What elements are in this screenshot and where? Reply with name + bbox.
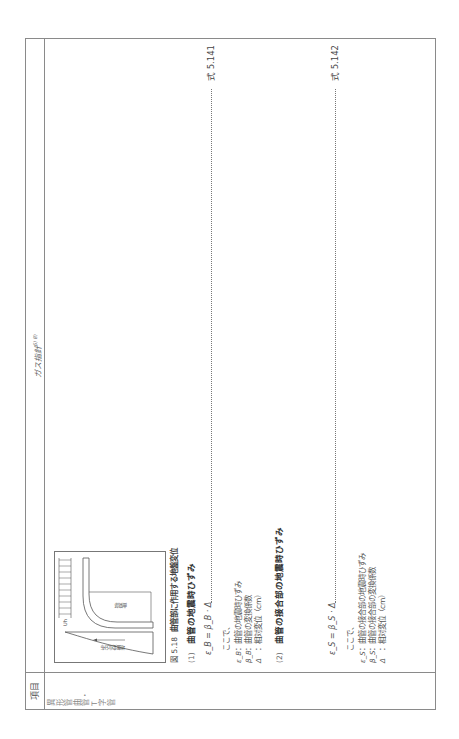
section-1-heading: (1)曲管の地震時ひずみ: [184, 563, 196, 663]
bend-pipe-diagram-icon: 地盤変位分布 曲管部: [55, 552, 165, 662]
section-2-heading: (2)曲管の接合部の地震時ひずみ: [272, 527, 284, 663]
where-text-1: ここで、: [220, 623, 231, 651]
figure-number: 図 5.18: [170, 637, 179, 663]
definition-delta-2: Δ：相対変位（cm）: [376, 591, 387, 663]
leader-dots: [211, 89, 212, 603]
header-refs: 6) 8): [32, 334, 38, 346]
header-title: ガス指針: [34, 346, 43, 378]
fig-label-uh: Uh: [62, 619, 68, 626]
definition-delta-1: Δ：相対変位（cm）: [252, 591, 263, 663]
document-page: 項目 ガス指針6) 8) 異形管曲管・T字管 地盤変位分布: [25, 38, 436, 710]
equation-number-5-142: 式 5.142: [328, 45, 340, 81]
table-body-row: 異形管曲管・T字管 地盤変位分布 曲管部: [44, 39, 435, 709]
equation-5-142: ε_S = β_S · Δ: [328, 603, 337, 655]
figure-caption-text: 曲管部に作用する地盤変位: [170, 548, 179, 632]
equation-5-141: ε_B = β_B · Δ: [204, 602, 213, 655]
item-column-header: 項目: [26, 672, 44, 709]
item-column: 異形管曲管・T字管: [44, 672, 435, 709]
figure-caption: 図 5.18 曲管部に作用する地盤変位: [168, 548, 179, 663]
fig-label-bend: 曲管部: [114, 602, 127, 609]
bend-displacement-figure: 地盤変位分布 曲管部: [54, 551, 166, 663]
fig-label-distribution: 地盤変位分布: [100, 644, 125, 651]
content-cell: 地盤変位分布 曲管部: [44, 39, 435, 673]
table-header-row: 項目 ガス指針6) 8): [26, 39, 45, 709]
gas-guideline-header: ガス指針6) 8): [26, 39, 44, 673]
equation-number-5-141: 式 5.141: [204, 45, 216, 81]
where-text-2: ここで、: [344, 623, 355, 651]
item-name: 異形管曲管・T字管: [48, 698, 116, 706]
leader-dots: [335, 89, 336, 603]
